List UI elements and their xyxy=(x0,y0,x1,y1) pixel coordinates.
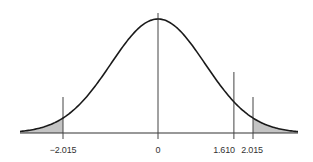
tick-label-positive-critical: 2.015 xyxy=(241,145,263,155)
tick-label-zero: 0 xyxy=(156,145,161,155)
tick-label-negative-critical: −2.015 xyxy=(50,145,77,155)
distribution-curve xyxy=(20,19,298,132)
tick-label-test-statistic: 1.610 xyxy=(213,145,235,155)
normal-distribution-diagram xyxy=(0,0,313,162)
